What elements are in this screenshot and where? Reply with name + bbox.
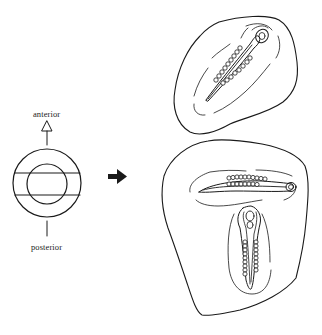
upper-egg-fragment — [174, 16, 297, 134]
inner-circle — [27, 164, 67, 204]
right-arrow-icon — [108, 169, 127, 184]
somites-vertical — [243, 240, 258, 276]
anterior-arrow-icon — [42, 121, 52, 145]
outer-circle — [13, 149, 81, 217]
lower-egg-fragment — [162, 140, 308, 315]
schematic-egg — [13, 121, 81, 236]
diagram-canvas — [0, 0, 322, 335]
